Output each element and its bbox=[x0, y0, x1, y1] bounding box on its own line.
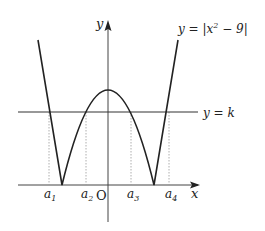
axis-x-label: x bbox=[191, 186, 199, 201]
point-label-a2: a2 bbox=[81, 187, 93, 203]
point-label-a1: a1 bbox=[44, 187, 56, 203]
point-label-a3: a3 bbox=[127, 187, 139, 203]
origin-label: O bbox=[96, 188, 107, 203]
axis-y-label: y bbox=[95, 16, 104, 31]
line-label: y = k bbox=[202, 106, 235, 120]
diagram: y x O y = k y = |x2 − 9| a1 a2 a3 a4 bbox=[0, 0, 265, 231]
point-label-a4: a4 bbox=[165, 187, 177, 203]
curve-label: y = |x2 − 9| bbox=[177, 21, 248, 36]
